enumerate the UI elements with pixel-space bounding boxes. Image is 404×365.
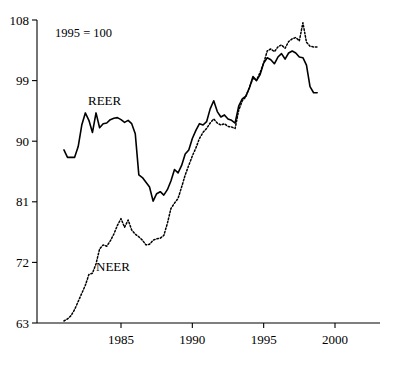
reer-series-label: REER: [88, 93, 122, 108]
y-tick-label: 81: [16, 194, 29, 209]
x-tick-label: 1985: [108, 332, 134, 347]
x-tick-label: 2000: [322, 332, 348, 347]
chart-container: 6372819099108 1985199019952000 1995 = 10…: [0, 0, 404, 365]
y-tick-label: 99: [16, 73, 29, 88]
x-axis-ticks: 1985199019952000: [108, 323, 348, 347]
exchange-rate-index-chart: 6372819099108 1985199019952000 1995 = 10…: [0, 0, 404, 365]
y-tick-label: 90: [16, 134, 29, 149]
y-tick-label: 108: [10, 13, 30, 28]
neer-series-line: [64, 23, 317, 321]
index-base-note: 1995 = 100: [55, 26, 112, 40]
y-tick-label: 72: [16, 255, 29, 270]
neer-series-label: NEER: [96, 259, 130, 274]
x-tick-label: 1990: [179, 332, 205, 347]
x-tick-label: 1995: [251, 332, 277, 347]
y-axis-ticks: 6372819099108: [10, 13, 38, 331]
y-tick-label: 63: [16, 316, 29, 331]
reer-series-line: [64, 51, 317, 201]
